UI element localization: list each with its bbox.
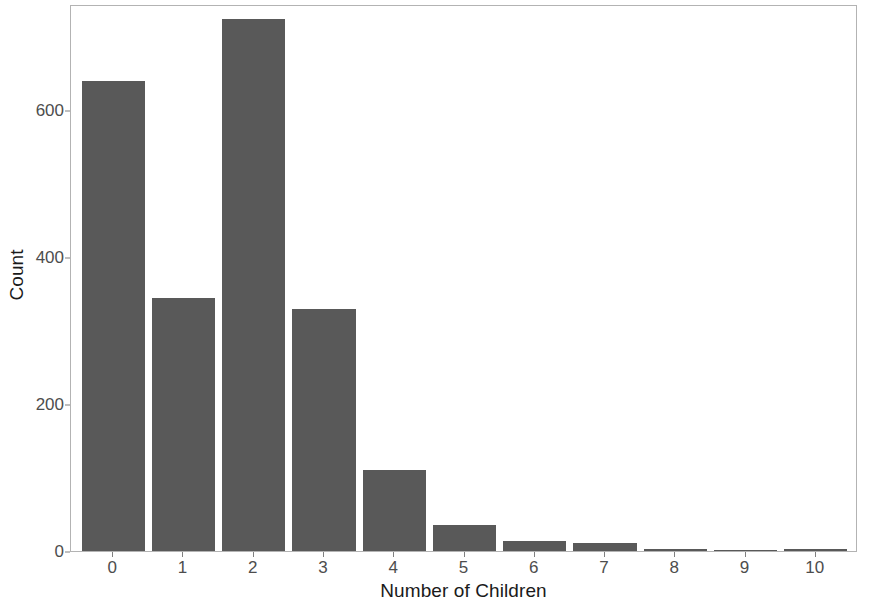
plot-panel [70,5,857,552]
y-axis-tick-label: 200 [36,395,64,415]
x-axis-tick-label: 7 [599,558,608,578]
x-axis-tick-mark [182,552,183,557]
x-axis-tick-labels: 012345678910 [70,558,857,582]
y-axis-tick-labels: 0200400600 [34,0,64,605]
x-axis-tick-label: 1 [178,558,187,578]
bar [433,525,496,551]
bar-chart: Count 0200400600 012345678910 Number of … [0,0,871,605]
x-axis-tick-mark [815,552,816,557]
bar [644,549,707,551]
x-axis-tick-label: 9 [740,558,749,578]
bar [784,549,847,551]
bar [503,541,566,551]
bar [222,19,285,551]
x-axis-tick-mark [323,552,324,557]
y-axis-tick-label: 400 [36,248,64,268]
x-axis-tick-label: 5 [459,558,468,578]
y-axis-tick-label: 0 [55,542,64,562]
x-axis-tick-label: 2 [248,558,257,578]
x-axis-tick-label: 0 [107,558,116,578]
x-axis-title: Number of Children [70,580,857,602]
x-axis-tick-mark [112,552,113,557]
x-axis-tick-mark [534,552,535,557]
bar [292,309,355,551]
x-axis-tick-mark [674,552,675,557]
y-axis-tick-label: 600 [36,101,64,121]
bar [82,81,145,551]
x-axis-tick-label: 8 [670,558,679,578]
bar [363,470,426,551]
x-axis-tick-label: 10 [805,558,824,578]
y-axis-title: Count [0,0,34,605]
bar [714,550,777,552]
x-axis-tick-mark [464,552,465,557]
x-axis-tick-label: 6 [529,558,538,578]
x-axis-tick-mark [604,552,605,557]
bar [152,298,215,551]
x-axis-tick-mark [745,552,746,557]
y-axis-title-label: Count [6,249,28,300]
bar [573,543,636,551]
x-axis-tick-label: 3 [318,558,327,578]
x-axis-tick-mark [253,552,254,557]
x-axis-tick-mark [393,552,394,557]
x-axis-tick-label: 4 [388,558,397,578]
